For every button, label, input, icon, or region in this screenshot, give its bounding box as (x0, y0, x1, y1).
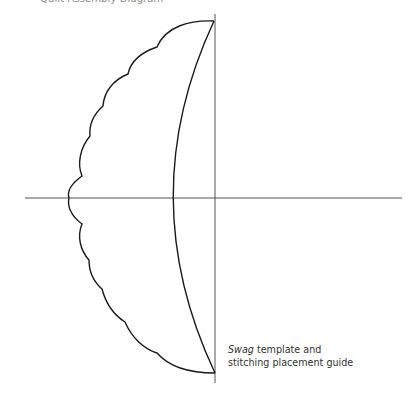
swag-template-diagram (0, 0, 418, 403)
swag-inner-arc (173, 21, 215, 373)
diagram-caption: Swag template and stitching placement gu… (228, 343, 353, 369)
caption-line-1-text: template and (254, 344, 321, 355)
caption-swag-word: Swag (228, 344, 254, 355)
caption-line-2: stitching placement guide (228, 356, 353, 369)
caption-line-1: Swag template and (228, 343, 353, 356)
